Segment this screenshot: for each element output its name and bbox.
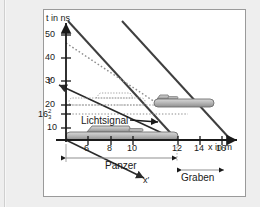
y-axis-title: t in ns bbox=[46, 13, 70, 23]
tank-moving-contracted bbox=[154, 95, 214, 107]
primed-time-axis-label: t′ bbox=[48, 76, 52, 86]
signal-dotted-line bbox=[66, 43, 161, 106]
fraction-denominator: 3 bbox=[48, 114, 51, 120]
panzer-label: Panzer bbox=[105, 160, 137, 171]
page-left-rule-light bbox=[5, 0, 6, 207]
diagram-svg bbox=[44, 10, 245, 196]
y-tick-label-50: 50 bbox=[45, 29, 55, 39]
x-tick-label-12: 12 bbox=[172, 143, 182, 153]
x-tick-label-8: 8 bbox=[107, 143, 112, 153]
x-tick-label-6: 6 bbox=[84, 143, 89, 153]
x-tick-label-10: 10 bbox=[127, 143, 137, 153]
y-tick-fraction: 23 bbox=[48, 108, 51, 120]
tank-rest-frame bbox=[66, 126, 178, 140]
graben-label: Graben bbox=[181, 172, 214, 183]
x-tick-label-16: 16 bbox=[216, 143, 226, 153]
y-tick-label-40: 40 bbox=[45, 52, 55, 62]
lichtsignal-pointer-arrow bbox=[130, 120, 158, 122]
lichtsignal-label: Lichtsignal bbox=[81, 115, 128, 126]
primed-space-axis-label: x′ bbox=[143, 175, 149, 185]
diagram-canvas: t in ns x in m 50 40 30 20 10 1623 6 8 1… bbox=[44, 10, 245, 196]
minkowski-diagram-figure: t in ns x in m 50 40 30 20 10 1623 6 8 1… bbox=[43, 9, 246, 197]
figure-page: t in ns x in m 50 40 30 20 10 1623 6 8 1… bbox=[0, 0, 260, 207]
y-tick-whole-part: 16 bbox=[38, 109, 48, 119]
x-tick-label-14: 14 bbox=[194, 143, 204, 153]
y-tick-label-10: 10 bbox=[47, 122, 57, 132]
y-tick-label-16-two-thirds: 1623 bbox=[38, 108, 51, 120]
